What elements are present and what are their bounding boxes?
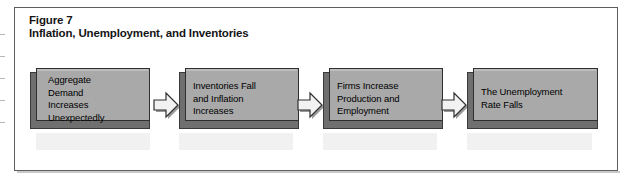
right-block-arrow-icon: [150, 88, 180, 120]
right-block-arrow-icon: [438, 88, 468, 120]
flow-step-line: Employment: [337, 105, 433, 118]
flow-step-line: Inventories Fall: [193, 80, 289, 93]
box-highlight: [37, 69, 148, 71]
flow-step-line: Rate Falls: [481, 99, 588, 112]
box-scan-band: [179, 133, 293, 150]
flow-step-label: The Unemployment Rate Falls: [481, 86, 588, 111]
flow-step-label: Firms Increase Production and Employment: [337, 80, 433, 118]
flow-step-line: Demand: [48, 87, 144, 100]
flow-step-line: Increases: [48, 99, 144, 112]
right-block-arrow-icon: [294, 88, 324, 120]
flow-step-line: Production and: [337, 93, 433, 106]
flow-step-aggregate-demand[interactable]: Aggregate Demand Increases Unexpectedly: [30, 68, 150, 125]
flow-connector-1: [150, 88, 180, 120]
flow-connector-2: [294, 88, 324, 120]
box-highlight: [186, 69, 297, 71]
flow-step-line: The Unemployment: [481, 86, 588, 99]
flow-diagram: Aggregate Demand Increases Unexpectedly …: [0, 0, 638, 185]
flow-step-line: Aggregate: [48, 74, 144, 87]
flow-step-line: Unexpectedly: [48, 112, 144, 125]
figure-diagram: Figure 7 Inflation, Unemployment, and In…: [0, 0, 638, 185]
box-highlight: [330, 69, 441, 71]
flow-step-label: Aggregate Demand Increases Unexpectedly: [48, 74, 144, 124]
flow-step-line: Increases: [193, 105, 289, 118]
box-scan-band: [323, 133, 437, 150]
flow-connector-3: [438, 88, 468, 120]
box-highlight: [474, 69, 596, 71]
flow-step-firms-production[interactable]: Firms Increase Production and Employment: [323, 68, 443, 125]
box-scan-band: [36, 133, 150, 150]
box-scan-band: [467, 133, 592, 150]
flow-step-inventories-inflation[interactable]: Inventories Fall and Inflation Increases: [179, 68, 299, 125]
flow-step-line: Firms Increase: [337, 80, 433, 93]
flow-step-label: Inventories Fall and Inflation Increases: [193, 80, 289, 118]
flow-step-line: and Inflation: [193, 93, 289, 106]
flow-step-unemployment-rate[interactable]: The Unemployment Rate Falls: [467, 68, 598, 125]
